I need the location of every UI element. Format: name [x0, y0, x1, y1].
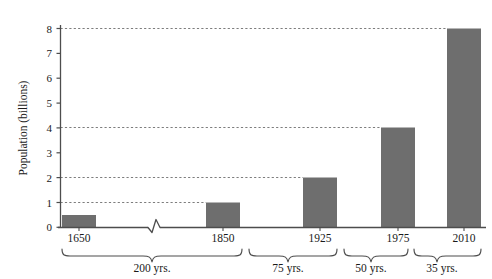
span-label-75yrs: 75 yrs. — [272, 262, 303, 275]
bar-1650[interactable] — [62, 215, 96, 227]
span-braces-group — [62, 249, 481, 262]
y-tick-label-6: 6 — [47, 72, 53, 84]
axis-break-zigzag-icon — [148, 220, 160, 233]
x-tick-label-1650: 1650 — [68, 232, 91, 244]
y-tick-labels: 8 7 6 5 4 3 2 1 0 — [47, 23, 53, 234]
population-bar-chart: 8 7 6 5 4 3 2 1 0 Population (billions) — [0, 0, 492, 279]
span-label-35yrs: 35 yrs. — [426, 262, 457, 275]
bars-group — [62, 29, 481, 228]
bar-2010[interactable] — [447, 29, 481, 228]
x-tick-label-1925: 1925 — [309, 232, 332, 244]
x-tick-label-1975: 1975 — [387, 232, 410, 244]
y-tick-label-8: 8 — [47, 23, 53, 35]
brace-200yrs-icon — [62, 249, 242, 262]
x-tick-labels: 1650 1850 1925 1975 2010 — [68, 232, 476, 244]
bar-1925[interactable] — [303, 178, 337, 228]
bar-1975[interactable] — [381, 128, 415, 228]
span-label-50yrs: 50 yrs. — [355, 262, 386, 275]
bar-1850[interactable] — [206, 203, 240, 228]
y-tick-label-4: 4 — [47, 122, 53, 134]
y-tick-label-0: 0 — [47, 221, 53, 233]
y-tick-label-2: 2 — [47, 172, 53, 184]
brace-50yrs-icon — [344, 249, 408, 262]
x-tick-label-2010: 2010 — [453, 232, 476, 244]
y-axis-title: Population (billions) — [17, 80, 30, 175]
y-tick-label-1: 1 — [47, 197, 53, 209]
chart-canvas: 8 7 6 5 4 3 2 1 0 Population (billions) — [0, 0, 492, 279]
x-axis-group — [58, 220, 486, 233]
y-tick-label-7: 7 — [47, 47, 53, 59]
x-tick-label-1850: 1850 — [212, 232, 235, 244]
brace-75yrs-icon — [249, 249, 337, 262]
span-label-200yrs: 200 yrs. — [133, 262, 170, 275]
span-labels-group: 200 yrs. 75 yrs. 50 yrs. 35 yrs. — [133, 262, 457, 275]
y-tick-label-3: 3 — [47, 147, 53, 159]
brace-35yrs-icon — [414, 249, 481, 262]
y-tick-label-5: 5 — [47, 97, 53, 109]
